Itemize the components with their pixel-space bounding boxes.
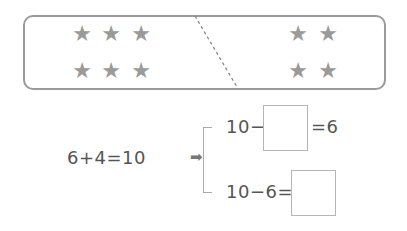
star-icon: ★ — [129, 23, 153, 45]
right-arrow-icon: ➡ — [190, 148, 203, 166]
main-equation: 6+4=10 — [67, 147, 146, 168]
star-icon: ★ — [129, 60, 153, 82]
bottom-equation-left: 10−6= — [226, 181, 293, 202]
star-icon: ★ — [70, 23, 94, 45]
top-equation-left: 10− — [226, 116, 266, 137]
star-icon: ★ — [70, 60, 94, 82]
bracket — [203, 127, 212, 193]
star-icon: ★ — [99, 60, 123, 82]
star-icon: ★ — [316, 60, 340, 82]
top-answer-box[interactable] — [263, 105, 308, 151]
top-equation-right: =6 — [311, 116, 339, 137]
bottom-answer-box[interactable] — [291, 170, 336, 216]
dashed-divider-line — [0, 0, 407, 231]
star-icon: ★ — [286, 23, 310, 45]
star-icon: ★ — [99, 23, 123, 45]
star-icon: ★ — [286, 60, 310, 82]
star-icon: ★ — [316, 23, 340, 45]
